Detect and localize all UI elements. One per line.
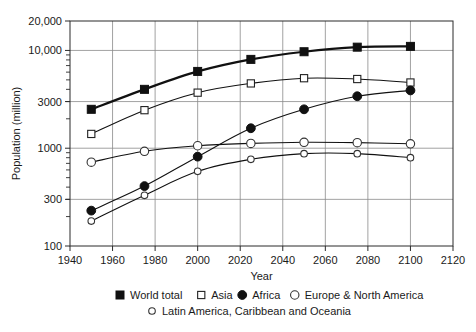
data-point [247, 80, 254, 87]
data-point [87, 105, 95, 113]
legend-marker [149, 308, 156, 315]
data-point [193, 152, 202, 161]
y-tick-label: 100 [44, 240, 62, 252]
series-line [91, 153, 410, 221]
data-point [248, 156, 255, 163]
data-point [407, 79, 414, 86]
data-point [247, 55, 255, 63]
data-point [300, 48, 308, 56]
x-tick-label: 2020 [228, 254, 252, 266]
y-tick-label: 1000 [38, 142, 62, 154]
legend-label: World total [130, 289, 182, 301]
x-tick-label: 2000 [185, 254, 209, 266]
data-point [300, 75, 307, 82]
data-point [247, 139, 255, 147]
legend-item[interactable]: Europe & North America [291, 289, 425, 301]
data-point [141, 192, 148, 199]
series-africa [87, 86, 415, 215]
data-point [88, 130, 95, 137]
data-point [194, 168, 201, 175]
data-point [88, 218, 95, 225]
data-point [406, 42, 414, 50]
y-tick-label: 10,000 [28, 44, 62, 56]
data-point [140, 147, 148, 155]
data-point [406, 140, 414, 148]
chart-canvas: 1003001000300010,00020,00019401960198020… [0, 0, 476, 332]
data-point [140, 85, 148, 93]
data-point [300, 138, 308, 146]
y-tick-label: 3000 [38, 96, 62, 108]
legend-item[interactable]: Latin America, Caribbean and Oceania [149, 305, 352, 317]
data-point [194, 89, 201, 96]
legend-item[interactable]: Africa [238, 289, 281, 301]
population-projection-chart: 1003001000300010,00020,00019401960198020… [0, 0, 476, 332]
x-tick-label: 2060 [313, 254, 337, 266]
x-tick-label: 2120 [441, 254, 465, 266]
data-point [193, 142, 201, 150]
y-axis-title: Population (million) [10, 87, 22, 181]
data-point [87, 158, 95, 166]
legend-marker [198, 291, 205, 298]
series-line [91, 90, 410, 210]
data-point [353, 92, 362, 101]
x-tick-label: 2040 [271, 254, 295, 266]
legend-marker [238, 291, 247, 300]
series-world-total [87, 42, 414, 113]
data-point [354, 150, 361, 157]
data-point [353, 138, 361, 146]
x-tick-label: 2100 [398, 254, 422, 266]
x-tick-label: 2080 [356, 254, 380, 266]
legend-item[interactable]: Asia [198, 289, 234, 301]
legend-marker [291, 291, 299, 299]
x-axis-title: Year [250, 270, 273, 282]
data-point [407, 154, 414, 161]
legend-label: Latin America, Caribbean and Oceania [162, 305, 352, 317]
plot-frame [70, 21, 453, 246]
data-point [140, 182, 149, 191]
legend-item[interactable]: World total [116, 289, 182, 301]
data-point [406, 86, 415, 95]
data-point [300, 105, 309, 114]
data-point [141, 107, 148, 114]
y-tick-label: 300 [44, 193, 62, 205]
data-point [354, 75, 361, 82]
legend-label: Asia [211, 289, 233, 301]
data-point [87, 206, 96, 215]
y-tick-label: 20,000 [28, 15, 62, 27]
legend-marker [116, 291, 124, 299]
series-latin-america-caribbean-and-oceania [88, 150, 414, 224]
data-point [194, 67, 202, 75]
data-point [246, 124, 255, 133]
x-tick-label: 1980 [143, 254, 167, 266]
data-point [353, 43, 361, 51]
legend-label: Africa [252, 289, 281, 301]
data-point [301, 150, 308, 157]
x-tick-label: 1960 [100, 254, 124, 266]
x-tick-label: 1940 [58, 254, 82, 266]
legend-label: Europe & North America [305, 289, 424, 301]
